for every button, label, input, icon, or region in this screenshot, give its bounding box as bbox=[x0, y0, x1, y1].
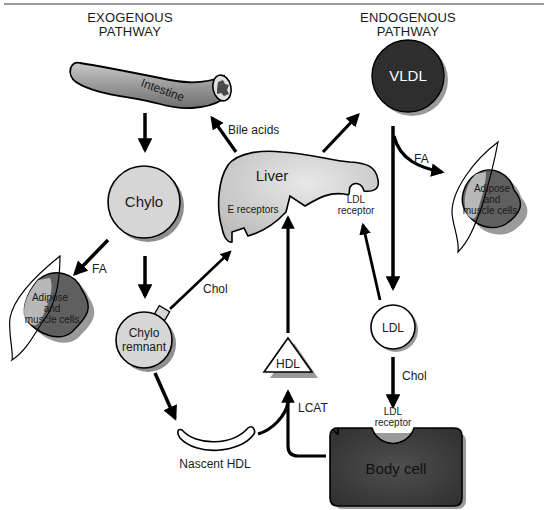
adipose-left-line1: Adipose bbox=[32, 292, 69, 303]
adipose-right-line3: muscle cells bbox=[463, 205, 517, 216]
lipoprotein-metabolism-diagram: EXOGENOUS PATHWAY ENDOGENOUS PATHWAY Int… bbox=[0, 0, 548, 510]
intestine-node: Intestine bbox=[70, 63, 233, 108]
nascent-hdl-label: Nascent HDL bbox=[179, 457, 251, 471]
chylo-remnant-node: Chylo remnant bbox=[116, 306, 176, 372]
ldl-label: LDL bbox=[382, 321, 404, 335]
arrow-remnant-to-liver bbox=[170, 252, 230, 309]
exogenous-header: EXOGENOUS PATHWAY bbox=[87, 10, 173, 39]
chylo-remnant-line2: remnant bbox=[122, 340, 167, 354]
hdl-label: HDL bbox=[276, 357, 300, 371]
chylo-node: Chylo bbox=[108, 166, 184, 242]
nascent-hdl-node: Nascent HDL bbox=[178, 427, 255, 471]
adipose-left-node: Adipose and muscle cells bbox=[10, 256, 95, 360]
body-ldl-receptor-line1: LDL bbox=[384, 406, 403, 417]
adipose-right-line1: Adipose bbox=[474, 183, 511, 194]
body-cell-label: Body cell bbox=[366, 460, 427, 477]
liver-ldl-receptor-line1: LDL bbox=[347, 194, 366, 205]
liver-label: Liver bbox=[256, 167, 289, 184]
lcat-label: LCAT bbox=[298, 401, 328, 415]
ldl-node: LDL bbox=[371, 305, 418, 352]
adipose-right-node: Adipose and muscle cells bbox=[452, 142, 527, 252]
endogenous-header-line2: PATHWAY bbox=[377, 24, 439, 39]
endogenous-header-line1: ENDOGENOUS bbox=[360, 10, 456, 25]
endogenous-header: ENDOGENOUS PATHWAY bbox=[360, 10, 456, 39]
chylo-label: Chylo bbox=[125, 193, 163, 210]
arrow-ldl-to-liver-receptor bbox=[363, 225, 380, 300]
adipose-left-line3: muscle cells bbox=[25, 314, 79, 325]
chylo-remnant-line1: Chylo bbox=[129, 326, 160, 340]
adipose-left-line2: and bbox=[44, 303, 61, 314]
exogenous-header-line2: PATHWAY bbox=[99, 24, 161, 39]
adipose-right-line2: and bbox=[484, 194, 501, 205]
arrow-nascent-hdl-to-hdl bbox=[258, 402, 288, 434]
liver-node: Liver E receptors LDL receptor bbox=[219, 151, 379, 242]
chol-ldl-label: Chol bbox=[402, 369, 427, 383]
bile-acids-label: Bile acids bbox=[228, 123, 279, 137]
vldl-node: VLDL bbox=[372, 40, 448, 116]
vldl-label: VLDL bbox=[389, 67, 427, 84]
arrow-remnant-to-nascent-hdl bbox=[155, 373, 175, 418]
hdl-node: HDL bbox=[264, 338, 318, 378]
exogenous-header-line1: EXOGENOUS bbox=[87, 10, 173, 25]
fa-right-label: FA bbox=[414, 152, 429, 166]
e-receptors-label: E receptors bbox=[227, 204, 278, 215]
chol-remnant-label: Chol bbox=[203, 282, 228, 296]
body-cell-node: Body cell LDL receptor bbox=[330, 406, 466, 509]
arrow-liver-to-vldl bbox=[323, 115, 358, 152]
fa-left-label: FA bbox=[92, 262, 107, 276]
body-ldl-receptor-line2: receptor bbox=[375, 417, 412, 428]
liver-ldl-receptor-line2: receptor bbox=[338, 205, 375, 216]
